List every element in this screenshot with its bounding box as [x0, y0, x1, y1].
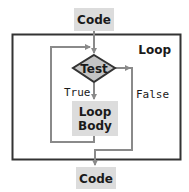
true-label: True	[64, 86, 91, 99]
loop-body-line-2: Body	[78, 119, 112, 133]
test-node: Test	[73, 55, 115, 82]
code-out-node: Code	[76, 167, 116, 189]
test-label: Test	[80, 62, 108, 76]
loop-flowchart: Loop Code Test True False Loop Body Code	[0, 0, 189, 192]
code-out-label: Code	[79, 172, 113, 186]
loop-body-node: Loop Body	[72, 101, 118, 136]
loop-label: Loop	[138, 43, 171, 57]
code-in-node: Code	[74, 8, 114, 31]
code-in-label: Code	[77, 13, 111, 27]
false-label: False	[136, 88, 169, 101]
loop-body-line-1: Loop	[79, 105, 112, 119]
